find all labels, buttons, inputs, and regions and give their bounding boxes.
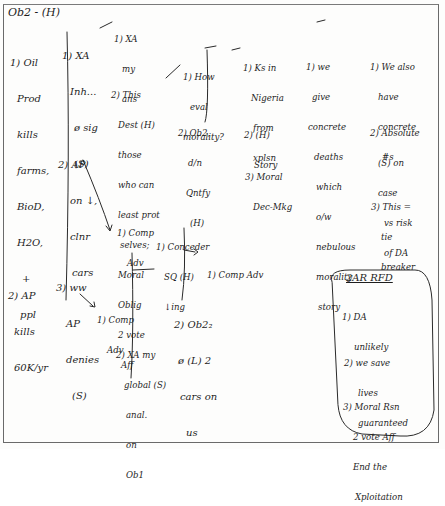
argument-comp-adv-1: 1) Comp Adv — [117, 208, 154, 288]
rfd-item-3: 3) Moral Rsn 2 vote Aff End the Xploitat… — [343, 382, 403, 506]
argument-ww-ap: 3) ww AP denies (S) — [56, 258, 99, 426]
argument-comp-adv-3: 1) Comp Adv — [207, 250, 263, 300]
rfd-heading: 2AR RFD — [346, 272, 393, 284]
argument-xa-global: 2) XA my global (S) anal. on Ob1 — [116, 330, 166, 500]
flow-title: Ob2 - (H) — [8, 8, 60, 18]
argument-moral-dec: 3) Moral Dec-Mkg — [245, 152, 292, 232]
argument-ob2-cars: 2) Ob2₂ ø (L) 2 cars on us — [174, 295, 217, 463]
argument-ap-kills: 2) AP kills 60K/yr — [8, 266, 48, 398]
argument-we-give: 1) we give concrete deaths which o/w neb… — [306, 42, 356, 332]
